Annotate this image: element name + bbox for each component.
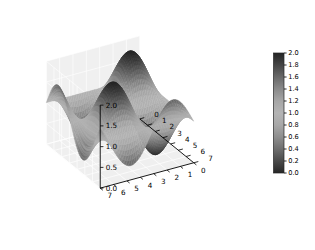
x-tick-label: 6 xyxy=(200,147,205,156)
tick-mark xyxy=(167,170,170,172)
colorbar-tick-label: 1.4 xyxy=(288,85,299,93)
tick-mark xyxy=(140,177,143,179)
y-tick-label: 1 xyxy=(188,170,193,179)
colorbar-tick-label: 1.2 xyxy=(288,97,299,105)
colorbar[interactable]: 0.00.20.40.60.81.01.21.41.61.82.0 xyxy=(274,49,299,177)
x-tick-label: 5 xyxy=(193,141,198,150)
z-tick-label: 1.5 xyxy=(106,121,117,130)
z-tick-label: 0.0 xyxy=(106,184,118,193)
tick-mark xyxy=(194,163,197,165)
y-tick-label: 4 xyxy=(148,181,153,190)
tick-mark xyxy=(127,181,130,183)
colorbar-tick-label: 0.0 xyxy=(288,169,299,177)
x-tick-label: 2 xyxy=(170,122,175,131)
y-tick-label: 7 xyxy=(108,191,113,200)
x-tick-label: 3 xyxy=(177,129,182,138)
tick-mark xyxy=(154,174,157,176)
x-tick-label: 4 xyxy=(185,135,190,144)
colorbar-tick-label: 0.6 xyxy=(288,133,299,141)
y-tick-label: 3 xyxy=(161,177,166,186)
tick-mark xyxy=(178,149,183,150)
surface-plot-svg[interactable]: 01234567 01234567 0.00.51.01.52.0 0.00.2… xyxy=(0,0,315,250)
x-tick-label: 0 xyxy=(154,110,159,119)
z-tick-label: 1.0 xyxy=(106,142,118,151)
colorbar-tick-label: 2.0 xyxy=(288,49,299,57)
z-tick-label: 0.5 xyxy=(106,163,117,172)
colorbar-tick-label: 1.0 xyxy=(288,109,299,117)
z-tick-label: 2.0 xyxy=(106,101,118,110)
tick-mark xyxy=(186,155,191,156)
figure-canvas: 01234567 01234567 0.00.51.01.52.0 0.00.2… xyxy=(0,0,315,250)
tick-mark xyxy=(194,162,199,163)
tick-mark xyxy=(180,166,183,168)
colorbar-tick-label: 1.6 xyxy=(288,73,299,81)
x-tick-label: 7 xyxy=(208,154,213,163)
x-tick-label: 1 xyxy=(162,116,167,125)
colorbar-gradient[interactable] xyxy=(274,53,285,173)
y-tick-label: 5 xyxy=(134,184,139,193)
y-tick-label: 2 xyxy=(174,173,179,182)
colorbar-tick-label: 1.8 xyxy=(288,61,299,69)
tick-mark xyxy=(171,143,176,144)
colorbar-tick-label: 0.2 xyxy=(288,157,299,165)
colorbar-tick-label: 0.4 xyxy=(288,145,299,153)
y-tick-label: 0 xyxy=(201,166,206,175)
y-tick-label: 6 xyxy=(121,188,126,197)
colorbar-tick-label: 0.8 xyxy=(288,121,299,129)
